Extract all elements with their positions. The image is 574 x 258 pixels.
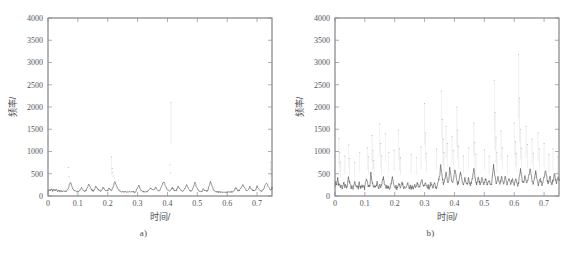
panel-b-y-tick-label: 500: [318, 170, 330, 179]
panel-b-x-tick-label: 0.7: [539, 199, 549, 208]
panel-a-y-tick-label: 3500: [27, 36, 43, 45]
figure-container: 0500100015002000250030003500400000.10.20…: [0, 0, 574, 258]
panel-b-y-tick-label: 2500: [314, 81, 330, 90]
panel-b-y-tick-label: 3000: [314, 58, 330, 67]
panel-a-y-axis-title: 频率/: [7, 96, 18, 117]
panel-b-x-tick-label: 0.1: [360, 199, 370, 208]
panel-b-x-tick-label: 0.6: [509, 199, 519, 208]
panel-a-axis-frame: [48, 18, 272, 196]
panel-a-x-tick-label: 0.5: [192, 199, 202, 208]
panel-b-y-tick-label: 0: [326, 192, 330, 201]
panel-a-x-tick-label: 0: [46, 199, 50, 208]
panel-a-axis-frame-overlay: [48, 18, 272, 196]
panel-a-x-tick-label: 0.3: [133, 199, 143, 208]
panel-b-speckle-points: [338, 54, 558, 177]
panel-b-y-tick-label: 1500: [314, 125, 330, 134]
panel-b-y-tick-label: 1000: [314, 147, 330, 156]
chart-panel-a: 0500100015002000250030003500400000.10.20…: [0, 0, 287, 258]
plot-svg-b: 0500100015002000250030003500400000.10.20…: [287, 0, 574, 258]
panel-b-caption: b): [287, 228, 574, 238]
panel-a-y-tick-label: 1000: [27, 147, 43, 156]
panel-b-x-tick-label: 0.3: [420, 199, 430, 208]
panel-a-y-tick-label: 500: [31, 170, 43, 179]
panel-a-x-tick-label: 0.2: [103, 199, 113, 208]
panel-b-y-tick-label: 4000: [314, 14, 330, 23]
panel-b-x-tick-label: 0: [333, 199, 337, 208]
panel-a-x-tick-label: 0.6: [222, 199, 232, 208]
panel-a-caption: a): [0, 228, 287, 238]
panel-b-x-tick-label: 0.2: [390, 199, 400, 208]
panel-a-y-tick-label: 1500: [27, 125, 43, 134]
panel-a-x-tick-label: 0.7: [252, 199, 262, 208]
panel-b-x-tick-label: 0.5: [479, 199, 489, 208]
panel-a-y-tick-label: 2000: [27, 103, 43, 112]
plot-a-content: 0500100015002000250030003500400000.10.20…: [7, 14, 272, 222]
panel-b-y-axis-title: 频率/: [294, 96, 305, 117]
panel-a-y-tick-label: 4000: [27, 14, 43, 23]
panel-b-x-tick-label: 0.4: [449, 199, 459, 208]
panel-a-y-tick-label: 0: [39, 192, 43, 201]
plot-svg-a: 0500100015002000250030003500400000.10.20…: [0, 0, 287, 258]
panel-b-y-tick-label: 2000: [314, 103, 330, 112]
panel-a-x-tick-label: 0.1: [73, 199, 83, 208]
panel-a-y-tick-label: 3000: [27, 58, 43, 67]
panel-a-x-tick-label: 0.4: [162, 199, 172, 208]
panel-a-data-line: [48, 181, 272, 192]
panel-a-y-tick-label: 2500: [27, 81, 43, 90]
panel-b-x-axis-title: 时间/: [437, 211, 458, 222]
plot-b-content: 0500100015002000250030003500400000.10.20…: [294, 14, 559, 222]
panel-b-y-tick-label: 3500: [314, 36, 330, 45]
chart-panel-b: 0500100015002000250030003500400000.10.20…: [287, 0, 574, 258]
panel-a-x-axis-title: 时间/: [150, 211, 171, 222]
panel-a-speckle-points: [68, 102, 272, 177]
